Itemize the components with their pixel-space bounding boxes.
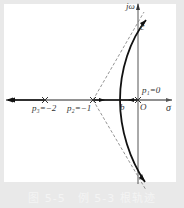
locus-branch-lower: [120, 100, 145, 182]
point-c-label: c: [140, 22, 144, 32]
imag-axis-label: jω: [126, 2, 135, 11]
arrow-up-icon: [136, 3, 140, 10]
real-axis-label: σ: [166, 103, 171, 113]
origin-label: O: [140, 103, 147, 112]
locus-arrow-icon: [128, 98, 134, 102]
pole-p2-label: p₂=−1: [67, 104, 91, 113]
pole-p1-label: p₁=0: [142, 86, 160, 95]
figure-caption: 图 5-5 例 5-3 根轨迹: [0, 189, 184, 205]
point-b-label: b: [120, 103, 125, 112]
pole-p3-label: p₃=−2: [32, 104, 56, 113]
asymptote-upper: [93, 12, 144, 100]
locus-arrow-icon: [99, 98, 105, 102]
root-locus-diagram: [0, 0, 184, 208]
